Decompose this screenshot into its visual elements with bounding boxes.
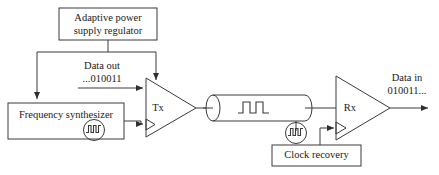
block-rx-label: Rx <box>332 102 368 114</box>
rx-clock-input-marker <box>336 122 346 134</box>
block-regulator-label-line1: Adaptive power <box>59 12 157 24</box>
channel-square-wave-icon <box>238 102 269 113</box>
tx-clock-input-marker <box>146 119 155 130</box>
signal-data-out-label-line2: ...010011 <box>64 73 140 85</box>
signal-data-in-label-line1: Data in <box>378 72 436 84</box>
frequency-synthesizer-clock-icon-waveform <box>86 126 101 133</box>
signal-data-out-label-line1: Data out <box>64 60 140 72</box>
block-frequency-synthesizer-label: Frequency synthesizer <box>8 109 124 121</box>
diagram-canvas: Adaptive power supply regulator Frequenc… <box>0 0 439 175</box>
block-regulator-label-line2: supply regulator <box>59 25 157 37</box>
block-tx-label: Tx <box>140 102 176 114</box>
block-clock-recovery-label: Clock recovery <box>272 149 361 161</box>
clock-recovery-clock-icon-waveform <box>288 129 303 136</box>
signal-data-in-label-line2: 010011... <box>376 85 438 97</box>
